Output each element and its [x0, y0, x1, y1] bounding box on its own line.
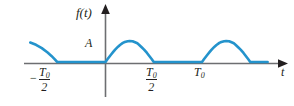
y-axis-arrowhead — [101, 4, 110, 14]
y-axis-label: f(t) — [76, 6, 92, 19]
tick-neg-half-numerator: T0 — [38, 66, 51, 79]
tick-pos-half-numerator-text: T — [146, 65, 153, 79]
y-axis-group — [101, 4, 110, 97]
amplitude-label: A — [85, 37, 92, 49]
tick-pos-half-numerator: T0 — [145, 66, 158, 79]
tick-period-text: T — [194, 65, 201, 79]
tick-period-subscript: 0 — [201, 71, 205, 80]
tick-pos-half-denominator: 2 — [145, 80, 158, 93]
tick-label-one-period: T0 — [194, 66, 205, 78]
waveform-curve — [30, 41, 267, 62]
figure-container: f(t) A t − T0 2 T0 2 T0 — [0, 0, 294, 106]
tick-pos-half-subscript: 0 — [153, 71, 157, 80]
tick-neg-half-subscript: 0 — [46, 71, 50, 80]
waveform-curve-group — [30, 41, 267, 62]
tick-label-neg-half-period-minus: − — [30, 71, 37, 86]
tick-label-pos-half-period: T0 2 — [145, 66, 158, 93]
tick-neg-half-numerator-text: T — [39, 65, 46, 79]
tick-label-neg-half-period: T0 2 — [38, 66, 51, 93]
tick-neg-half-denominator: 2 — [38, 80, 51, 93]
x-axis-label: t — [281, 66, 284, 78]
